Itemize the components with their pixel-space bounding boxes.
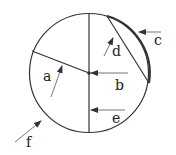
centre-point <box>87 71 91 75</box>
label-b: b <box>115 77 124 93</box>
label-a: a <box>43 68 51 84</box>
label-c: c <box>154 32 162 48</box>
label-e: e <box>112 110 120 126</box>
circle-diagram: a b c d e f <box>0 0 176 155</box>
label-f: f <box>26 134 33 150</box>
arrow-a-icon <box>51 66 62 97</box>
label-d: d <box>112 43 121 59</box>
